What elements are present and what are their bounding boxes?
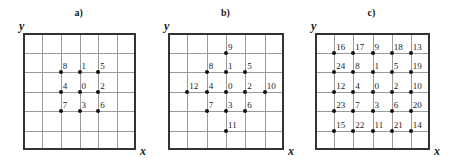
grid-node-label: 7 [355,101,360,110]
grid-node-label: 11 [228,121,237,130]
grid-node-label: 3 [228,101,233,110]
x-axis-label: x [140,144,146,159]
grid-node-label: 13 [413,43,422,52]
grid-node-label: 8 [209,62,214,71]
grid-node-label: 17 [355,43,364,52]
grid-node-label: 4 [209,82,214,91]
grid-node-label: 3 [82,101,87,110]
grid-node-label: 2 [247,82,252,91]
grid-node-label: 5 [247,62,252,71]
grid-node-label: 6 [247,101,252,110]
grid-node-label: 15 [336,121,345,130]
grid-node-label: 0 [228,82,233,91]
grid-node-label: 19 [413,62,422,71]
grid-node-label: 11 [375,121,384,130]
grid-node-label: 5 [100,62,105,71]
y-axis-label: y [19,19,24,34]
grid-node-label: 16 [336,43,345,52]
panel-title: c) [368,7,376,18]
grid-node-label: 6 [100,101,105,110]
grid-node-label: 7 [63,101,68,110]
grid-node-label: 20 [413,101,422,110]
grid-node-label: 5 [394,62,399,71]
x-axis-label: x [434,144,440,159]
grid-node-label: 23 [336,101,345,110]
grid-node-label: 1 [82,62,87,71]
grid-node-label: 1 [375,62,380,71]
grid-node-label: 8 [355,62,360,71]
grid-line-vertical [117,35,118,148]
x-axis-label: x [288,144,294,159]
grid-node-label: 2 [394,82,399,91]
grid-node-label: 1 [228,62,233,71]
grid-node-label: 10 [267,82,276,91]
grid-node-label: 0 [375,82,380,91]
grid-node-label: 22 [355,121,364,130]
y-axis-label: y [164,19,169,34]
grid-node-label: 9 [375,43,380,52]
grid-node-label: 21 [394,121,403,130]
panel-title: b) [221,7,230,18]
grid-node-label: 7 [209,101,214,110]
grid-node-label: 12 [336,82,345,91]
grid-node-label: 4 [63,82,68,91]
grid-node-label: 10 [413,82,422,91]
grid-node-label: 4 [355,82,360,91]
grid-node-label: 3 [375,101,380,110]
grid-node-label: 12 [189,82,198,91]
y-axis-label: y [311,19,316,34]
panel-title: a) [75,7,83,18]
grid-node-label: 2 [100,82,105,91]
grid-node-label: 8 [63,62,68,71]
grid-node-label: 24 [336,62,345,71]
grid-node-label: 14 [413,121,422,130]
grid-node-label: 9 [228,43,233,52]
grid-node-label: 18 [394,43,403,52]
grid-node-label: 6 [394,101,399,110]
grid-node-label: 0 [82,82,87,91]
